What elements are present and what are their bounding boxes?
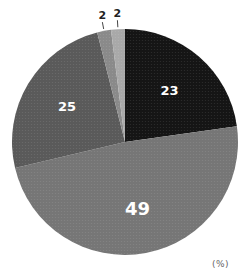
slice-value-label: 23	[160, 83, 178, 98]
pie-slices	[12, 29, 238, 255]
slice-value-label: 49	[125, 198, 150, 219]
slice-value-label-outside: 2	[99, 9, 107, 22]
leader-line	[102, 22, 103, 29]
pie-chart: 23492522	[0, 0, 245, 277]
slice-value-label-outside: 2	[114, 7, 122, 20]
slice-value-label: 25	[58, 99, 76, 114]
unit-label: (%)	[212, 259, 229, 269]
slice-texture	[125, 29, 237, 142]
